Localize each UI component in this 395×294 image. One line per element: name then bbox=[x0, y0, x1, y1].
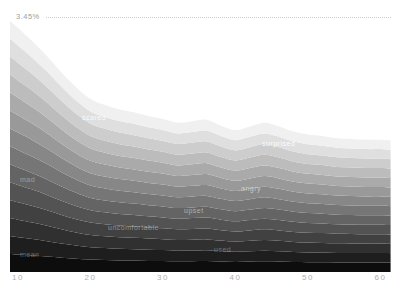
x-tick-label-50: 50 bbox=[302, 273, 314, 282]
streamgraph-plot bbox=[0, 0, 395, 294]
x-tick-label-40: 40 bbox=[230, 273, 242, 282]
x-tick-label-30: 30 bbox=[157, 273, 169, 282]
x-tick-label-60: 60 bbox=[375, 273, 387, 282]
chart-canvas: FEELINGS BY AGE 3.45% scaredsurprisedmad… bbox=[0, 0, 395, 294]
x-tick-label-20: 20 bbox=[85, 273, 97, 282]
x-tick-label-10: 10 bbox=[12, 273, 24, 282]
